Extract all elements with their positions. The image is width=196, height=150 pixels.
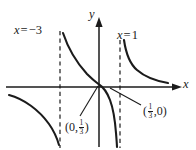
x-intercept-close-paren: ) <box>163 104 167 118</box>
asymptote-label-left-variable: x <box>14 23 20 37</box>
y-intercept-label: (0,13) <box>65 119 89 135</box>
x-axis-label: x <box>183 78 189 91</box>
y-intercept-fraction-numerator: 1 <box>79 119 85 127</box>
x-intercept-label: (13,0) <box>143 103 167 119</box>
asymptote-label-right: x=1 <box>117 29 138 42</box>
leader-line-x-intercept <box>110 88 141 105</box>
x-intercept-fraction-denominator: 3 <box>148 111 154 120</box>
asymptote-label-left-equals: = <box>20 23 29 37</box>
asymptote-label-right-variable: x <box>117 28 123 42</box>
x-intercept-open-paren: ( <box>143 104 147 118</box>
curve-right-branch <box>124 40 168 83</box>
asymptote-label-right-equals: = <box>123 28 132 42</box>
y-intercept-fraction-denominator: 3 <box>79 127 85 136</box>
asymptote-label-right-value: 1 <box>132 28 138 42</box>
y-axis-label: y <box>89 8 95 21</box>
asymptote-label-left: x=−3 <box>14 24 42 37</box>
x-intercept-fraction-numerator: 1 <box>148 103 154 111</box>
asymptote-label-left-value: −3 <box>29 23 42 37</box>
leader-line-y-intercept <box>80 86 98 116</box>
x-axis <box>6 83 182 90</box>
curve-left-branch <box>9 95 59 145</box>
rational-function-figure: x=−3 x=1 y x (0,13) (13,0) <box>0 0 196 150</box>
y-intercept-fraction: 13 <box>79 119 85 135</box>
y-intercept-close-paren: ) <box>85 120 89 134</box>
x-intercept-fraction: 13 <box>148 103 154 119</box>
